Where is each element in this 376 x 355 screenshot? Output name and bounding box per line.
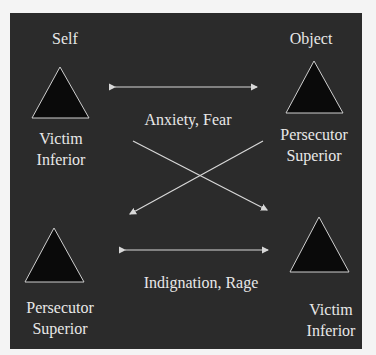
header-object: Object [290,28,333,49]
top-arrow-label: Anxiety, Fear [145,109,232,130]
top-left-label-2: Inferior [37,149,86,170]
header-self: Self [52,28,78,49]
bottom-left-label-1: Persecutor [26,297,94,318]
bottom-right-label-2: Inferior [307,320,356,341]
triangle-bottom-right [290,217,349,272]
bottom-right-label-1: Victim [309,299,352,320]
triangle-object-top-right [286,61,343,113]
bottom-arrow-label: Indignation, Rage [144,272,259,293]
top-right-label-2: Superior [286,145,341,166]
triangle-bottom-left [25,228,84,282]
bottom-left-label-2: Superior [32,318,87,339]
top-left-label-1: Victim [39,128,82,149]
triangle-self-top-left [32,67,89,118]
top-right-label-1: Persecutor [280,124,348,145]
cross-arrow-down-left [130,141,263,214]
